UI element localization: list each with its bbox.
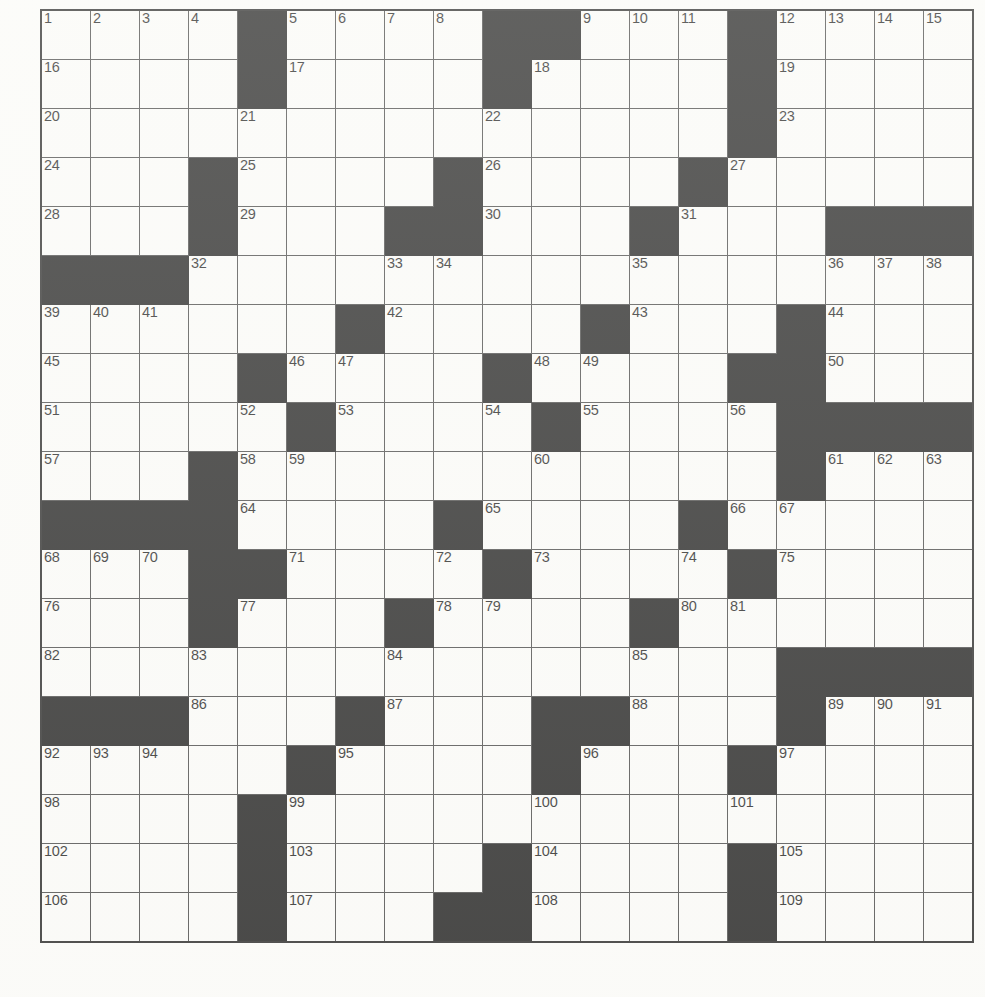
crossword-cell[interactable]: 62 [875, 452, 924, 501]
crossword-cell[interactable] [532, 207, 581, 256]
crossword-cell[interactable]: 12 [777, 10, 826, 60]
crossword-cell[interactable]: 11 [679, 10, 728, 60]
crossword-cell[interactable] [336, 60, 385, 109]
crossword-cell[interactable]: 98 [41, 795, 91, 844]
crossword-cell[interactable] [728, 256, 777, 305]
crossword-cell[interactable] [434, 697, 483, 746]
crossword-cell[interactable] [924, 599, 974, 648]
crossword-cell[interactable] [679, 403, 728, 452]
crossword-cell[interactable] [679, 354, 728, 403]
crossword-cell[interactable]: 46 [287, 354, 336, 403]
crossword-cell[interactable]: 17 [287, 60, 336, 109]
crossword-cell[interactable]: 49 [581, 354, 630, 403]
crossword-cell[interactable] [581, 599, 630, 648]
crossword-cell[interactable]: 103 [287, 844, 336, 893]
crossword-cell[interactable] [581, 158, 630, 207]
crossword-cell[interactable] [679, 844, 728, 893]
crossword-cell[interactable] [336, 452, 385, 501]
crossword-cell[interactable] [336, 109, 385, 158]
crossword-cell[interactable] [140, 844, 189, 893]
crossword-cell[interactable]: 28 [41, 207, 91, 256]
crossword-cell[interactable]: 30 [483, 207, 532, 256]
crossword-cell[interactable]: 77 [238, 599, 287, 648]
crossword-cell[interactable]: 81 [728, 599, 777, 648]
crossword-cell[interactable]: 22 [483, 109, 532, 158]
crossword-cell[interactable]: 47 [336, 354, 385, 403]
crossword-cell[interactable] [483, 452, 532, 501]
crossword-cell[interactable] [434, 844, 483, 893]
crossword-cell[interactable] [728, 697, 777, 746]
crossword-cell[interactable] [728, 207, 777, 256]
crossword-cell[interactable] [630, 403, 679, 452]
crossword-cell[interactable] [581, 256, 630, 305]
crossword-cell[interactable]: 104 [532, 844, 581, 893]
crossword-cell[interactable]: 66 [728, 501, 777, 550]
crossword-cell[interactable]: 13 [826, 10, 875, 60]
crossword-cell[interactable] [581, 550, 630, 599]
crossword-cell[interactable] [826, 599, 875, 648]
crossword-cell[interactable] [434, 403, 483, 452]
crossword-cell[interactable] [385, 550, 434, 599]
crossword-cell[interactable] [679, 305, 728, 354]
crossword-cell[interactable] [91, 893, 140, 943]
crossword-cell[interactable] [924, 158, 974, 207]
crossword-cell[interactable] [875, 60, 924, 109]
crossword-cell[interactable] [532, 256, 581, 305]
crossword-cell[interactable]: 78 [434, 599, 483, 648]
crossword-cell[interactable] [875, 844, 924, 893]
crossword-cell[interactable] [91, 354, 140, 403]
crossword-cell[interactable] [777, 158, 826, 207]
crossword-cell[interactable] [875, 599, 924, 648]
crossword-cell[interactable] [679, 256, 728, 305]
crossword-cell[interactable]: 95 [336, 746, 385, 795]
crossword-cell[interactable] [91, 60, 140, 109]
crossword-cell[interactable] [875, 109, 924, 158]
crossword-cell[interactable]: 86 [189, 697, 238, 746]
crossword-cell[interactable] [189, 305, 238, 354]
crossword-cell[interactable] [483, 746, 532, 795]
crossword-cell[interactable]: 45 [41, 354, 91, 403]
crossword-cell[interactable] [581, 501, 630, 550]
crossword-cell[interactable] [875, 550, 924, 599]
crossword-cell[interactable]: 20 [41, 109, 91, 158]
crossword-cell[interactable] [140, 354, 189, 403]
crossword-cell[interactable] [287, 207, 336, 256]
crossword-cell[interactable] [532, 648, 581, 697]
crossword-cell[interactable]: 97 [777, 746, 826, 795]
crossword-cell[interactable]: 27 [728, 158, 777, 207]
crossword-cell[interactable]: 93 [91, 746, 140, 795]
crossword-cell[interactable] [630, 501, 679, 550]
crossword-cell[interactable] [826, 60, 875, 109]
crossword-cell[interactable] [875, 354, 924, 403]
crossword-cell[interactable] [189, 795, 238, 844]
crossword-cell[interactable] [630, 746, 679, 795]
crossword-cell[interactable]: 43 [630, 305, 679, 354]
crossword-cell[interactable] [777, 207, 826, 256]
crossword-cell[interactable] [287, 109, 336, 158]
crossword-cell[interactable] [385, 452, 434, 501]
crossword-cell[interactable] [189, 746, 238, 795]
crossword-cell[interactable]: 38 [924, 256, 974, 305]
crossword-cell[interactable]: 109 [777, 893, 826, 943]
crossword-cell[interactable] [924, 60, 974, 109]
crossword-cell[interactable] [238, 256, 287, 305]
crossword-cell[interactable] [679, 697, 728, 746]
crossword-cell[interactable] [630, 109, 679, 158]
crossword-cell[interactable] [924, 795, 974, 844]
crossword-cell[interactable]: 18 [532, 60, 581, 109]
crossword-cell[interactable] [238, 746, 287, 795]
crossword-cell[interactable] [483, 256, 532, 305]
crossword-cell[interactable] [91, 452, 140, 501]
crossword-cell[interactable] [434, 354, 483, 403]
crossword-cell[interactable] [385, 844, 434, 893]
crossword-cell[interactable]: 64 [238, 501, 287, 550]
crossword-cell[interactable] [91, 403, 140, 452]
crossword-cell[interactable] [140, 109, 189, 158]
crossword-cell[interactable] [875, 501, 924, 550]
crossword-cell[interactable]: 57 [41, 452, 91, 501]
crossword-cell[interactable] [630, 60, 679, 109]
crossword-cell[interactable]: 42 [385, 305, 434, 354]
crossword-cell[interactable]: 52 [238, 403, 287, 452]
crossword-cell[interactable]: 55 [581, 403, 630, 452]
crossword-cell[interactable] [385, 795, 434, 844]
